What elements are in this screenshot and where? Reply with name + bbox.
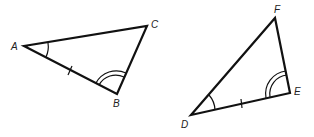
side-de-tick bbox=[241, 99, 242, 108]
triangles-diagram: A B C D E F bbox=[0, 0, 314, 137]
angle-a-arc bbox=[46, 43, 48, 57]
vertex-label-a: A bbox=[10, 41, 18, 52]
triangle-def: D E F bbox=[181, 4, 301, 130]
vertex-label-b: B bbox=[113, 98, 120, 109]
angle-d-arc bbox=[209, 95, 215, 110]
triangle-def-outline bbox=[191, 18, 290, 115]
vertex-label-f: F bbox=[274, 4, 281, 15]
vertex-label-e: E bbox=[294, 86, 301, 97]
triangle-abc: A B C bbox=[10, 19, 159, 109]
triangle-abc-outline bbox=[24, 26, 147, 94]
vertex-label-d: D bbox=[181, 119, 188, 130]
vertex-label-c: C bbox=[151, 19, 159, 30]
angle-b-arc-inner bbox=[99, 75, 124, 85]
